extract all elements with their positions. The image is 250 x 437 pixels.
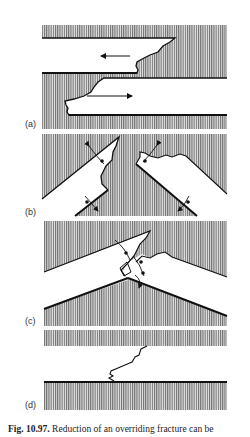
fracture-reduction-figure: (a) (b) (c) (d) Fig. 10.97. Reduction of… <box>0 0 250 437</box>
panel-label-c: (c) <box>25 316 36 326</box>
caption-figure-number: Fig. 10.97. <box>8 424 50 434</box>
caption-text: Reduction of an overriding fracture can … <box>52 424 213 434</box>
panel-label-b: (b) <box>25 207 36 217</box>
panel-d-drawing <box>44 330 227 410</box>
figure-caption: Fig. 10.97. Reduction of an overriding f… <box>8 424 250 434</box>
panel-a-drawing <box>42 25 227 129</box>
panel-b-drawing <box>42 134 227 216</box>
panel-label-a: (a) <box>25 119 36 129</box>
panel-c-drawing <box>44 221 227 326</box>
figure-illustration <box>0 0 250 437</box>
panel-label-d: (d) <box>25 400 36 410</box>
